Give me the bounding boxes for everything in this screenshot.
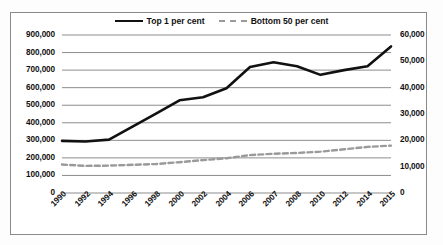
right-axis-tick-20000: 20,000	[400, 135, 424, 144]
right-axis-tick-60000: 60,000	[400, 30, 424, 39]
right-axis-tick-40000: 40,000	[400, 83, 424, 92]
series-line-1	[62, 46, 391, 141]
left-axis-tick-100000: 100,000	[0, 170, 55, 179]
right-axis-tick-50000: 50,000	[400, 56, 424, 65]
right-axis-tick-10000: 10,000	[400, 162, 424, 171]
left-axis-tick-500000: 500,000	[0, 100, 55, 109]
right-axis-tick-0: 0	[400, 188, 404, 197]
left-axis-tick-700000: 700,000	[0, 65, 55, 74]
left-axis-tick-900000: 900,000	[0, 30, 55, 39]
series-line-2	[62, 146, 391, 166]
right-axis-tick-30000: 30,000	[400, 109, 424, 118]
left-axis-tick-300000: 300,000	[0, 135, 55, 144]
left-axis-tick-800000: 800,000	[0, 48, 55, 57]
left-axis-tick-0: 0	[0, 188, 55, 197]
left-axis-tick-200000: 200,000	[0, 153, 55, 162]
left-axis-tick-600000: 600,000	[0, 83, 55, 92]
plot-area	[0, 0, 443, 245]
left-axis-tick-400000: 400,000	[0, 118, 55, 127]
chart-container: Top 1 per cent Bottom 50 per cent 0100,0…	[0, 0, 443, 245]
